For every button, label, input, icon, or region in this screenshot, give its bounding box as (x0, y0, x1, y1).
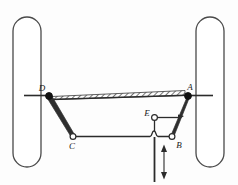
steering-linkage-figure: D A C B E (0, 0, 238, 185)
label-B: B (176, 140, 182, 150)
label-E: E (143, 108, 150, 118)
left-wheel (13, 17, 41, 167)
right-wheel (196, 17, 224, 167)
knuckle-arm-left (48, 96, 76, 138)
joint-E (152, 115, 158, 121)
linkage-diagram-svg: D A C B E (0, 0, 238, 185)
joint-D (46, 93, 53, 100)
hatched-axle-beam (52, 91, 186, 100)
joint-B (169, 134, 175, 140)
label-D: D (38, 83, 46, 93)
tie-rod (74, 131, 171, 137)
joint-A (185, 93, 192, 100)
joint-C (70, 134, 76, 140)
double-headed-motion-arrow (161, 145, 167, 180)
label-A: A (186, 82, 193, 92)
label-C: C (69, 141, 76, 151)
